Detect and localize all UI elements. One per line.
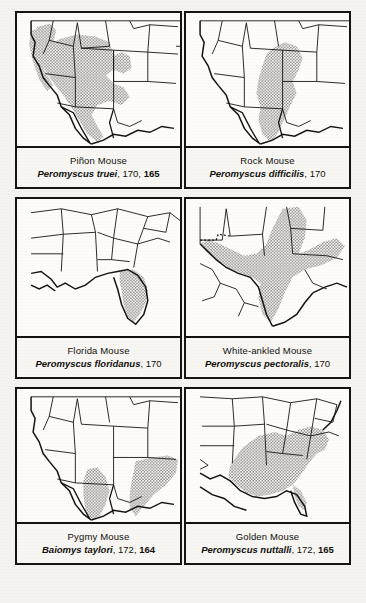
range-map-florida-mouse xyxy=(17,199,180,338)
range-map-panel-pinon-mouse[interactable]: Piñon Mouse Peromyscus truei, 170, 165 xyxy=(15,11,182,189)
page-ref-1: 170 xyxy=(146,358,162,369)
range-map-panel-white-ankled-mouse[interactable]: White-ankled Mouse Peromyscus pectoralis… xyxy=(184,197,351,379)
scientific-line: Peromyscus nuttalli, 172, 165 xyxy=(201,544,334,556)
common-name: Golden Mouse xyxy=(236,531,300,543)
page-ref-1: 170 xyxy=(123,168,139,179)
page-ref-1: 170 xyxy=(310,168,326,179)
scientific-line: Peromyscus truei, 170, 165 xyxy=(37,168,159,180)
range-map-white-ankled-mouse xyxy=(186,199,349,338)
caption-pygmy-mouse: Pygmy Mouse Baiomys taylori, 172, 164 xyxy=(17,524,180,563)
range-map-panel-rock-mouse[interactable]: Rock Mouse Peromyscus difficilis, 170 xyxy=(184,11,351,189)
common-name: Pygmy Mouse xyxy=(68,531,130,543)
page-ref-2: 165 xyxy=(144,168,160,179)
common-name: White-ankled Mouse xyxy=(223,345,312,357)
scientific-line: Peromyscus difficilis, 170 xyxy=(209,168,325,180)
range-map-pygmy-mouse xyxy=(17,389,180,524)
scientific-name: Peromyscus truei xyxy=(37,168,117,179)
range-map-panel-golden-mouse[interactable]: Golden Mouse Peromyscus nuttalli, 172, 1… xyxy=(184,387,351,565)
page-ref-1: 170 xyxy=(314,358,330,369)
caption-pinon-mouse: Piñon Mouse Peromyscus truei, 170, 165 xyxy=(17,148,180,187)
scientific-name: Baiomys taylori xyxy=(42,544,113,555)
panel-cell: Pygmy Mouse Baiomys taylori, 172, 164 xyxy=(14,387,183,573)
scientific-name: Peromyscus difficilis xyxy=(209,168,304,179)
page-ref-1: 172 xyxy=(118,544,134,555)
caption-golden-mouse: Golden Mouse Peromyscus nuttalli, 172, 1… xyxy=(186,524,349,563)
panel-cell: Golden Mouse Peromyscus nuttalli, 172, 1… xyxy=(183,387,352,573)
scientific-name: Peromyscus pectoralis xyxy=(205,358,309,369)
range-map-rock-mouse xyxy=(186,13,349,148)
page-ref-2: 164 xyxy=(139,544,155,555)
range-map-panel-pygmy-mouse[interactable]: Pygmy Mouse Baiomys taylori, 172, 164 xyxy=(15,387,182,565)
range-map-panel-florida-mouse[interactable]: Florida Mouse Peromyscus floridanus, 170 xyxy=(15,197,182,379)
scientific-line: Peromyscus pectoralis, 170 xyxy=(205,358,330,370)
field-guide-page: Piñon Mouse Peromyscus truei, 170, 165 xyxy=(0,0,366,603)
panel-cell: Florida Mouse Peromyscus floridanus, 170 xyxy=(14,197,183,387)
range-map-pinon-mouse xyxy=(17,13,180,148)
common-name: Florida Mouse xyxy=(67,345,129,357)
common-name: Piñon Mouse xyxy=(70,155,127,167)
scientific-line: Baiomys taylori, 172, 164 xyxy=(42,544,155,556)
panel-cell: Rock Mouse Peromyscus difficilis, 170 xyxy=(183,11,352,197)
caption-florida-mouse: Florida Mouse Peromyscus floridanus, 170 xyxy=(17,338,180,377)
page-ref-2: 165 xyxy=(318,544,334,555)
caption-rock-mouse: Rock Mouse Peromyscus difficilis, 170 xyxy=(186,148,349,187)
common-name: Rock Mouse xyxy=(240,155,294,167)
range-map-grid: Piñon Mouse Peromyscus truei, 170, 165 xyxy=(14,11,352,573)
caption-white-ankled-mouse: White-ankled Mouse Peromyscus pectoralis… xyxy=(186,338,349,377)
range-map-golden-mouse xyxy=(186,389,349,524)
scientific-line: Peromyscus floridanus, 170 xyxy=(35,358,161,370)
page-ref-1: 172 xyxy=(297,544,313,555)
panel-cell: Piñon Mouse Peromyscus truei, 170, 165 xyxy=(14,11,183,197)
scientific-name: Peromyscus nuttalli xyxy=(201,544,291,555)
panel-cell: White-ankled Mouse Peromyscus pectoralis… xyxy=(183,197,352,387)
scientific-name: Peromyscus floridanus xyxy=(35,358,140,369)
